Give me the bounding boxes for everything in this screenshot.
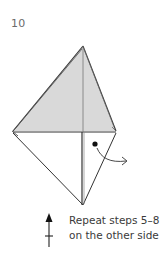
repeat-arrow-icon [45, 213, 53, 247]
caption-line-1: Repeat steps 5–8 [69, 213, 163, 228]
lower-flap [12, 127, 116, 205]
fold-dot-icon [92, 141, 97, 146]
caption: Repeat steps 5–8 on the other side [69, 213, 163, 243]
caption-line-2: on the other side [69, 228, 163, 243]
upper-flap [13, 46, 116, 132]
